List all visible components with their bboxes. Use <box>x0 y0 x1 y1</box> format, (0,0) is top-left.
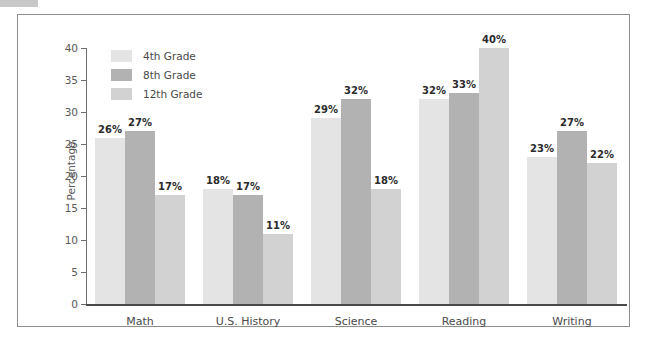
bar-value-label: 27% <box>560 117 584 128</box>
bar[interactable] <box>587 163 617 304</box>
x-category-label: Reading <box>410 315 518 328</box>
chart-frame: Percentage 0510152025303540 26%27%17%Mat… <box>17 14 630 327</box>
legend-swatch <box>111 69 132 81</box>
y-tick-mark <box>81 304 86 305</box>
bar-value-label: 17% <box>236 181 260 192</box>
bar-slot: 23% <box>527 48 557 304</box>
bar[interactable] <box>419 99 449 304</box>
bar-value-label: 18% <box>206 175 230 186</box>
bar-slot: 32% <box>419 48 449 304</box>
x-axis-line <box>86 304 627 306</box>
y-tick-label: 30 <box>65 106 78 118</box>
y-tick-label: 10 <box>65 234 78 246</box>
x-category-label: Math <box>86 315 194 328</box>
y-tick-label: 35 <box>65 74 78 86</box>
bar-value-label: 23% <box>530 143 554 154</box>
bar[interactable] <box>527 157 557 304</box>
y-tick-label: 0 <box>71 298 78 310</box>
bar-value-label: 29% <box>314 104 338 115</box>
y-tick-label: 25 <box>65 138 78 150</box>
bar-value-label: 22% <box>590 149 614 160</box>
x-category-label: Writing <box>518 315 626 328</box>
bar-value-label: 17% <box>158 181 182 192</box>
y-tick-label: 15 <box>65 202 78 214</box>
bar-value-label: 32% <box>422 85 446 96</box>
bar[interactable] <box>203 189 233 304</box>
legend-label: 4th Grade <box>143 50 196 62</box>
chart-page: Percentage 0510152025303540 26%27%17%Mat… <box>0 0 647 341</box>
bar[interactable] <box>233 195 263 304</box>
bar-value-label: 26% <box>98 124 122 135</box>
bar-slot: 32% <box>341 48 371 304</box>
legend-item[interactable]: 4th Grade <box>111 46 202 65</box>
bar-group: 32%33%40%Reading <box>410 48 518 304</box>
scan-artifact <box>0 0 38 7</box>
bar-group-bars: 32%33%40% <box>410 48 518 304</box>
bar-group-bars: 23%27%22% <box>518 48 626 304</box>
bar-value-label: 27% <box>128 117 152 128</box>
bar-slot: 33% <box>449 48 479 304</box>
bar-value-label: 33% <box>452 79 476 90</box>
legend-label: 8th Grade <box>143 69 196 81</box>
bar-slot: 17% <box>233 48 263 304</box>
y-tick-label: 20 <box>65 170 78 182</box>
bar-slot: 18% <box>203 48 233 304</box>
bar-slot: 22% <box>587 48 617 304</box>
bar[interactable] <box>155 195 185 304</box>
legend-item[interactable]: 8th Grade <box>111 65 202 84</box>
bar-value-label: 11% <box>266 220 290 231</box>
bar[interactable] <box>341 99 371 304</box>
bar-group-bars: 18%17%11% <box>194 48 302 304</box>
bar-group: 29%32%18%Science <box>302 48 410 304</box>
bar-slot: 27% <box>557 48 587 304</box>
bar-group: 18%17%11%U.S. History <box>194 48 302 304</box>
bar-group: 23%27%22%Writing <box>518 48 626 304</box>
bar-value-label: 18% <box>374 175 398 186</box>
bar[interactable] <box>311 118 341 304</box>
y-tick-label: 40 <box>65 42 78 54</box>
bar-value-label: 32% <box>344 85 368 96</box>
bar[interactable] <box>371 189 401 304</box>
bar[interactable] <box>449 93 479 304</box>
bar-slot: 29% <box>311 48 341 304</box>
bar-slot: 11% <box>263 48 293 304</box>
bar-slot: 40% <box>479 48 509 304</box>
legend-label: 12th Grade <box>143 88 202 100</box>
bar-value-label: 40% <box>482 34 506 45</box>
bar-group-bars: 29%32%18% <box>302 48 410 304</box>
legend-swatch <box>111 88 132 100</box>
bar[interactable] <box>479 48 509 304</box>
bar[interactable] <box>125 131 155 304</box>
bar[interactable] <box>557 131 587 304</box>
bar[interactable] <box>95 138 125 304</box>
legend: 4th Grade8th Grade12th Grade <box>111 46 202 103</box>
legend-swatch <box>111 50 132 62</box>
x-category-label: Science <box>302 315 410 328</box>
y-tick-label: 5 <box>71 266 78 278</box>
bar[interactable] <box>263 234 293 304</box>
bar-slot: 18% <box>371 48 401 304</box>
x-category-label: U.S. History <box>194 315 302 328</box>
legend-item[interactable]: 12th Grade <box>111 84 202 103</box>
